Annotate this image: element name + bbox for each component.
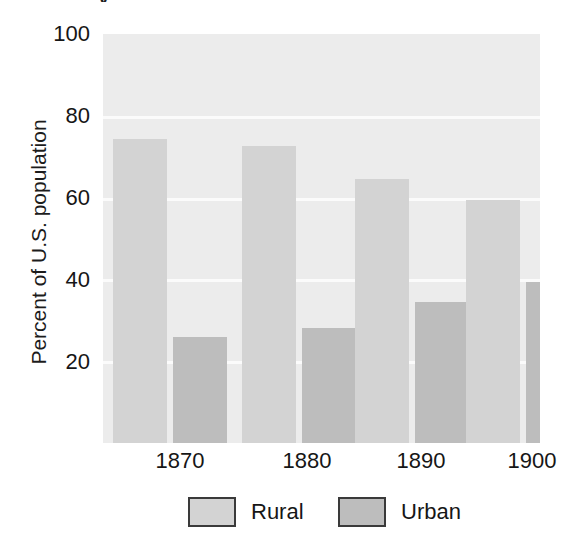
bar-urban-1900 bbox=[526, 282, 540, 443]
cropped-title-remnant: y bbox=[96, 0, 112, 2]
plot-area bbox=[103, 34, 540, 443]
x-tick-label-1900: 1900 bbox=[482, 450, 569, 472]
x-tick-label-1890: 1890 bbox=[371, 450, 471, 472]
gridline-80 bbox=[103, 116, 540, 119]
y-tick-label: 20 bbox=[28, 351, 90, 373]
chart-legend: Rural Urban bbox=[103, 497, 540, 543]
bar-rural-1870 bbox=[113, 139, 167, 443]
y-tick-label: 80 bbox=[28, 105, 90, 127]
bar-rural-1900 bbox=[466, 200, 520, 443]
bar-chart-figure: y Percent of U.S. population 100 80 60 4… bbox=[0, 0, 569, 550]
bar-rural-1880 bbox=[242, 146, 296, 443]
legend-swatch-rural bbox=[188, 497, 236, 527]
y-tick-label: 100 bbox=[28, 23, 90, 45]
legend-label-urban: Urban bbox=[401, 501, 461, 523]
y-tick-label: 40 bbox=[28, 269, 90, 291]
x-tick-label-1880: 1880 bbox=[257, 450, 357, 472]
legend-item-urban: Urban bbox=[338, 497, 461, 527]
bar-urban-1880 bbox=[302, 328, 356, 443]
bar-urban-1890 bbox=[415, 302, 469, 443]
bar-urban-1870 bbox=[173, 337, 227, 443]
y-tick-label: 60 bbox=[28, 187, 90, 209]
x-tick-label-1870: 1870 bbox=[130, 450, 230, 472]
bar-rural-1890 bbox=[355, 179, 409, 443]
legend-swatch-urban bbox=[338, 497, 386, 527]
y-axis-tick-labels: 100 80 60 40 20 bbox=[28, 0, 90, 550]
legend-label-rural: Rural bbox=[251, 501, 304, 523]
legend-item-rural: Rural bbox=[188, 497, 304, 527]
